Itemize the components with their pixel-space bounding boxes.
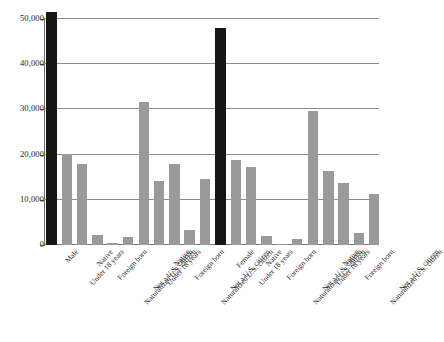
bar: [354, 233, 365, 245]
bar: [92, 235, 103, 245]
bar: [323, 171, 334, 245]
bar: [308, 111, 319, 245]
bar: [231, 160, 242, 245]
x-axis-tick-label: Male: [64, 248, 80, 265]
gridline: [44, 154, 379, 155]
bar: [184, 230, 195, 245]
y-axis-tick-label: 20,000: [0, 150, 44, 159]
gridline: [44, 63, 379, 64]
y-axis-tick-label: 10,000: [0, 195, 44, 204]
bar: [292, 239, 303, 245]
x-axis-tick-label: Not a U.S. citizen: [398, 248, 440, 293]
gridline: [44, 108, 379, 109]
bar: [154, 181, 165, 245]
plot-area: [44, 10, 379, 245]
bar: [246, 167, 257, 245]
gridline: [44, 18, 379, 19]
bar: [107, 243, 118, 245]
bar: [46, 12, 57, 245]
bar: [215, 28, 226, 245]
y-axis-tick-label: 50,000: [0, 14, 44, 23]
y-axis-tick-label: 40,000: [0, 59, 44, 68]
y-axis-tick-mark: [40, 245, 44, 246]
bar: [169, 164, 180, 245]
bar: [276, 244, 287, 245]
bar: [123, 237, 134, 245]
bar: [261, 236, 272, 245]
bar: [62, 154, 73, 245]
bar: [139, 102, 150, 245]
y-axis-tick-label: 0: [0, 240, 44, 249]
bar: [77, 164, 88, 245]
bar: [200, 179, 211, 245]
y-axis-tick-label: 30,000: [0, 104, 44, 113]
bar: [369, 194, 380, 245]
bar: [338, 183, 349, 245]
